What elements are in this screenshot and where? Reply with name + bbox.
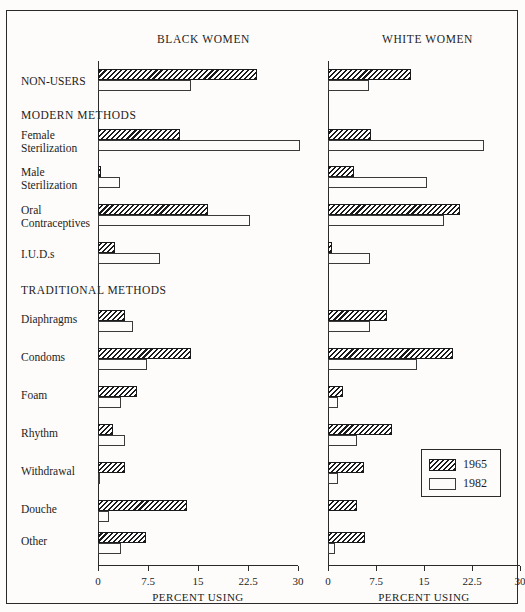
row-label-line: Contraceptives xyxy=(21,217,90,230)
bar-black-condoms-1982 xyxy=(98,359,147,370)
bar-white-diaphragms-1965 xyxy=(328,310,387,321)
x-axis-tick-black xyxy=(198,566,199,571)
row-label-male-sterilization: MaleSterilization xyxy=(21,166,77,191)
bar-black-other-1965 xyxy=(98,532,146,543)
row-label-rhythm: Rhythm xyxy=(21,427,58,440)
bar-black-other-1982 xyxy=(98,543,121,554)
bar-black-rhythm-1965 xyxy=(98,424,113,435)
legend-item-1965: 1965 xyxy=(429,457,487,472)
panel-title-black-women: BLACK WOMEN xyxy=(157,33,250,45)
x-axis-tick-label-black: 15 xyxy=(193,575,204,587)
x-axis-tick-black xyxy=(298,566,299,571)
bar-white-rhythm-1965 xyxy=(328,424,392,435)
row-label-condoms: Condoms xyxy=(21,351,65,364)
x-axis-tick-label-black: 22.5 xyxy=(238,575,257,587)
x-axis-tick-label-white: 22.5 xyxy=(462,575,481,587)
x-axis-tick-white xyxy=(520,566,521,571)
bar-white-female-sterilization-1965 xyxy=(328,129,371,140)
bar-black-douche-1982 xyxy=(98,511,109,522)
x-axis-tick-black xyxy=(248,566,249,571)
legend-swatch-1982-icon xyxy=(429,478,456,490)
bar-white-i-u-d-s-1965 xyxy=(328,242,332,253)
row-label-non-users: NON-USERS xyxy=(21,75,86,88)
legend-label-1982: 1982 xyxy=(463,476,487,491)
row-label-line: Male xyxy=(21,166,77,179)
bar-black-withdrawal-1982 xyxy=(98,473,100,484)
x-axis-tick-label-white: 0 xyxy=(325,575,331,587)
legend-label-1965: 1965 xyxy=(463,457,487,472)
bar-black-female-sterilization-1982 xyxy=(98,140,300,151)
row-label-line: Oral xyxy=(21,204,90,217)
bar-white-i-u-d-s-1982 xyxy=(328,253,370,264)
bar-black-female-sterilization-1965 xyxy=(98,129,180,140)
bar-black-rhythm-1982 xyxy=(98,435,125,446)
bar-white-male-sterilization-1982 xyxy=(328,177,427,188)
bar-black-i-u-d-s-1965 xyxy=(98,242,115,253)
row-label-line: Diaphragms xyxy=(21,313,77,326)
x-axis-tick-white xyxy=(472,566,473,571)
x-axis-tick-label-black: 7.5 xyxy=(141,575,155,587)
bar-black-non-users-1982 xyxy=(98,80,191,91)
bar-black-non-users-1965 xyxy=(98,69,257,80)
bar-white-douche-1965 xyxy=(328,500,357,511)
bar-black-oral-contraceptives-1982 xyxy=(98,215,250,226)
bar-black-diaphragms-1965 xyxy=(98,310,125,321)
row-label-other: Other xyxy=(21,535,47,548)
bar-white-female-sterilization-1982 xyxy=(328,140,484,151)
bar-black-foam-1982 xyxy=(98,397,121,408)
bar-black-i-u-d-s-1982 xyxy=(98,253,160,264)
x-axis-tick-black xyxy=(98,566,99,571)
plot-area-black-women: 07.51522.530 xyxy=(98,61,298,566)
bar-white-other-1965 xyxy=(328,532,365,543)
row-label-douche: Douche xyxy=(21,503,57,516)
bar-white-non-users-1982 xyxy=(328,80,369,91)
bar-white-condoms-1982 xyxy=(328,359,417,370)
x-axis-tick-label-black: 0 xyxy=(95,575,101,587)
bar-white-foam-1965 xyxy=(328,386,343,397)
legend: 1965 1982 xyxy=(421,449,501,497)
x-axis-tick-label-black: 30 xyxy=(293,575,304,587)
bar-black-withdrawal-1965 xyxy=(98,462,125,473)
row-label-withdrawal: Withdrawal xyxy=(21,465,75,478)
x-axis-title-white: PERCENT USING xyxy=(328,591,520,603)
x-axis-title-black: PERCENT USING xyxy=(98,591,298,603)
bar-black-oral-contraceptives-1965 xyxy=(98,204,208,215)
row-label-line: NON-USERS xyxy=(21,75,86,88)
bar-black-diaphragms-1982 xyxy=(98,321,133,332)
x-axis-tick-white xyxy=(376,566,377,571)
chart-page: BLACK WOMEN WHITE WOMEN MODERN METHODS T… xyxy=(0,0,525,612)
row-label-line: Foam xyxy=(21,389,47,402)
bar-black-male-sterilization-1965 xyxy=(98,166,101,177)
bar-white-other-1982 xyxy=(328,543,335,554)
x-axis-tick-black xyxy=(148,566,149,571)
bar-white-rhythm-1982 xyxy=(328,435,357,446)
bar-white-oral-contraceptives-1965 xyxy=(328,204,460,215)
bar-black-foam-1965 xyxy=(98,386,137,397)
bar-white-oral-contraceptives-1982 xyxy=(328,215,444,226)
row-label-line: Rhythm xyxy=(21,427,58,440)
bar-black-condoms-1965 xyxy=(98,348,191,359)
row-label-line: Withdrawal xyxy=(21,465,75,478)
row-label-line: I.U.D.s xyxy=(21,248,55,261)
x-axis-tick-label-white: 30 xyxy=(515,575,525,587)
row-label-line: Sterilization xyxy=(21,142,77,155)
x-axis-tick-label-white: 7.5 xyxy=(369,575,383,587)
row-label-line: Condoms xyxy=(21,351,65,364)
row-label-line: Douche xyxy=(21,503,57,516)
row-label-female-sterilization: FemaleSterilization xyxy=(21,129,77,154)
row-label-line: Sterilization xyxy=(21,179,77,192)
x-axis-tick-white xyxy=(328,566,329,571)
bar-white-non-users-1965 xyxy=(328,69,411,80)
chart-frame: BLACK WOMEN WHITE WOMEN MODERN METHODS T… xyxy=(6,10,518,604)
x-axis-tick-label-white: 15 xyxy=(419,575,430,587)
bar-white-male-sterilization-1965 xyxy=(328,166,354,177)
row-label-line: Other xyxy=(21,535,47,548)
x-axis-tick-white xyxy=(424,566,425,571)
panel-title-white-women: WHITE WOMEN xyxy=(382,33,473,45)
bar-white-withdrawal-1982 xyxy=(328,473,338,484)
legend-swatch-1965-icon xyxy=(429,459,456,471)
bar-black-douche-1965 xyxy=(98,500,187,511)
legend-item-1982: 1982 xyxy=(429,476,487,491)
bar-white-withdrawal-1965 xyxy=(328,462,364,473)
bar-white-diaphragms-1982 xyxy=(328,321,370,332)
